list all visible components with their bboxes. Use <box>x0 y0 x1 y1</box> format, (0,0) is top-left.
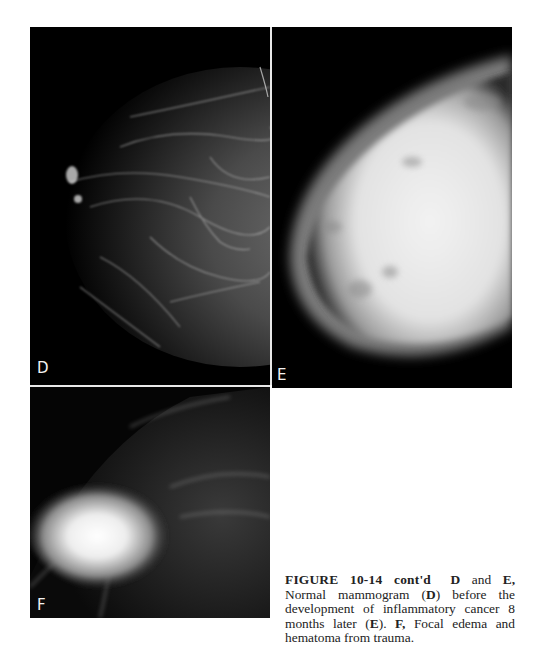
caption-ref-d: D <box>426 587 436 602</box>
mammogram-panel-e: E <box>272 27 512 388</box>
panel-label-d: D <box>37 361 49 376</box>
caption-text: ). <box>379 616 395 631</box>
figure-caption: FIGURE 10-14 cont'd D and E, Normal mamm… <box>285 573 515 646</box>
mammogram-image-d <box>30 27 270 385</box>
caption-ref-f: F, <box>395 616 405 631</box>
panel-label-f: F <box>37 598 46 613</box>
panel-label-e: E <box>277 368 286 383</box>
caption-ref-e: E, <box>503 572 515 587</box>
caption-ref-d: D <box>451 572 461 587</box>
mammogram-image-e <box>272 27 512 388</box>
mammogram-image-f <box>30 387 270 618</box>
figure-number: FIGURE 10-14 cont'd <box>285 572 431 587</box>
caption-ref-e: E <box>370 616 379 631</box>
caption-text: and <box>460 572 502 587</box>
caption-text: Normal mammogram ( <box>285 587 426 602</box>
mammogram-panel-d: D <box>30 27 270 385</box>
mammogram-panel-f: F <box>30 387 270 618</box>
